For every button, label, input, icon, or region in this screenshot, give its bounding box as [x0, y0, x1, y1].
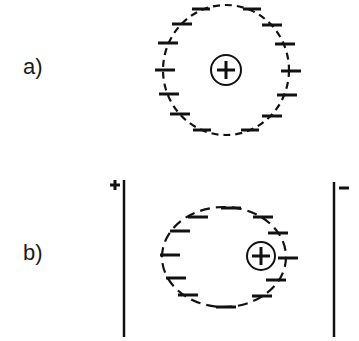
panel-b-diagram	[110, 180, 349, 337]
diagram-canvas	[0, 0, 359, 341]
positive-plate-sign	[110, 180, 120, 190]
nucleus-a	[211, 55, 241, 85]
nucleus-b	[247, 242, 275, 270]
panel-a-diagram	[155, 5, 301, 135]
